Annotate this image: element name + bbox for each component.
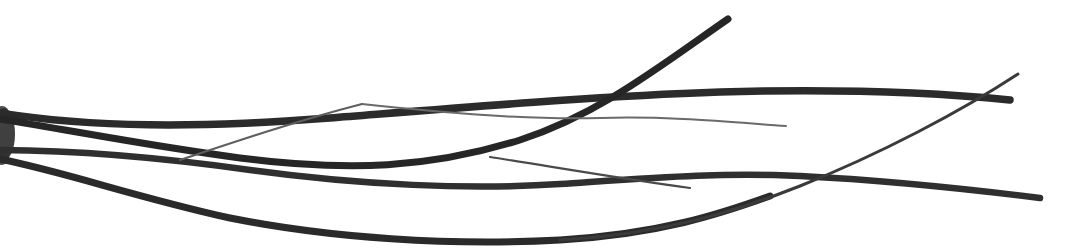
swoosh-artwork: Abstract flowing line swoosh Hand-drawn … <box>0 0 1074 252</box>
artwork-canvas: Abstract flowing line swoosh Hand-drawn … <box>0 0 1074 252</box>
